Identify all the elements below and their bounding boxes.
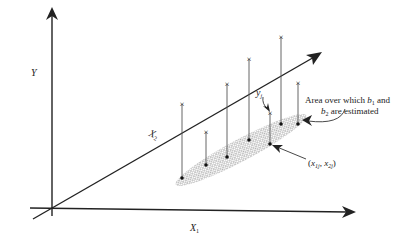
base-dot-icon (247, 138, 251, 142)
x1-axis-label: X1 (189, 222, 199, 234)
cross-marker-icon: × (278, 32, 283, 42)
base-dot-icon (180, 176, 184, 180)
cross-marker-icon: × (179, 99, 184, 109)
base-dot-icon (279, 122, 283, 126)
cross-marker-icon: × (203, 127, 208, 137)
estimation-area (170, 106, 311, 195)
area-annotation-line1: Area over which b1 and (305, 95, 390, 106)
regression-plane-diagram: × × × × × × × (0, 0, 420, 237)
observation-1: × (179, 99, 184, 180)
base-dot-icon (296, 122, 300, 126)
y-axis-label: Y (31, 67, 38, 78)
area-annotation-line2: b2 are estimated (321, 106, 379, 117)
observation-4: × (246, 54, 251, 142)
x1-axis (30, 206, 356, 218)
base-dot-icon (225, 155, 229, 159)
y-axis (46, 7, 58, 216)
base-dot-icon (204, 163, 208, 167)
x2-axis-arrowhead-icon (306, 52, 322, 65)
cross-marker-icon: × (246, 54, 251, 64)
x2-axis-label: X2 (146, 127, 160, 142)
cross-marker-icon: × (224, 79, 229, 89)
point-pointer (272, 145, 306, 159)
observation-6: × (278, 32, 283, 126)
base-dot-icon (268, 142, 272, 146)
cross-marker-icon: × (295, 78, 300, 88)
yj-label: yj (255, 87, 262, 99)
yj-pointer (263, 97, 270, 112)
point-coordinate-label: (x1j, x2j) (308, 158, 336, 169)
